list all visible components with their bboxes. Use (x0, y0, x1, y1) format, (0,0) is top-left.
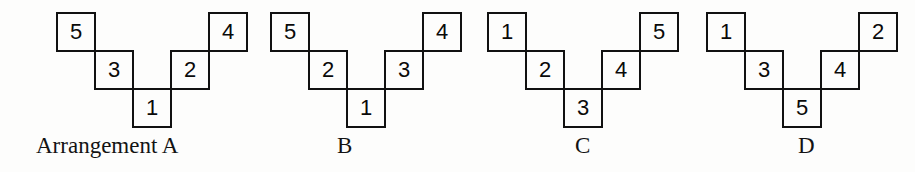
square-number: 5 (58, 21, 94, 43)
square-number: 2 (860, 21, 896, 43)
square-number: 1 (348, 97, 384, 119)
square-number: 4 (424, 21, 460, 43)
square-cell: 5 (56, 12, 96, 52)
square-number: 1 (134, 97, 170, 119)
square-cell: 2 (170, 50, 210, 90)
square-cell: 5 (270, 12, 310, 52)
arrangement-b-caption: B (337, 133, 352, 159)
square-number: 4 (210, 21, 246, 43)
square-cell: 2 (525, 50, 565, 90)
square-cell: 2 (858, 12, 898, 52)
square-cell: 3 (384, 50, 424, 90)
square-number: 4 (603, 59, 639, 81)
square-number: 2 (527, 59, 563, 81)
square-cell: 3 (94, 50, 134, 90)
arrangement-d-caption: D (798, 133, 815, 159)
square-number: 3 (386, 59, 422, 81)
square-cell: 3 (744, 50, 784, 90)
square-cell: 5 (639, 12, 679, 52)
arrangement-c-caption: C (575, 133, 590, 159)
square-number: 5 (641, 21, 677, 43)
square-number: 5 (784, 97, 820, 119)
square-cell: 5 (782, 88, 822, 128)
square-cell: 4 (208, 12, 248, 52)
square-number: 1 (708, 21, 744, 43)
square-cell: 4 (422, 12, 462, 52)
square-cell: 2 (308, 50, 348, 90)
square-number: 2 (310, 59, 346, 81)
square-number: 3 (746, 59, 782, 81)
square-number: 1 (489, 21, 525, 43)
square-arrangements-figure: 53124Arrangement A52134B12345C13542D (0, 0, 915, 172)
square-cell: 4 (601, 50, 641, 90)
square-number: 4 (822, 59, 858, 81)
square-number: 3 (96, 59, 132, 81)
square-cell: 4 (820, 50, 860, 90)
square-cell: 1 (487, 12, 527, 52)
square-number: 2 (172, 59, 208, 81)
square-cell: 1 (346, 88, 386, 128)
square-number: 3 (565, 97, 601, 119)
square-cell: 1 (706, 12, 746, 52)
square-number: 5 (272, 21, 308, 43)
square-cell: 3 (563, 88, 603, 128)
square-cell: 1 (132, 88, 172, 128)
arrangement-a-caption: Arrangement A (36, 133, 178, 159)
